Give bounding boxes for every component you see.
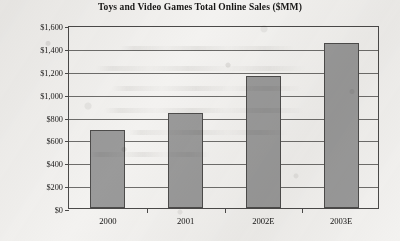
- bar: [324, 43, 359, 208]
- bar: [90, 130, 125, 208]
- bars-series: [69, 27, 378, 208]
- plot-area: $0$200$400$600$800$1,000$1,200$1,400$1,6…: [68, 26, 379, 209]
- x-axis-tick-label: 2001: [177, 216, 194, 226]
- x-axis-tick-mark: [147, 208, 148, 213]
- x-axis-tick-label: 2003E: [330, 216, 352, 226]
- x-axis-tick-label: 2000: [99, 216, 116, 226]
- y-axis-tick-mark: [65, 210, 69, 211]
- x-axis-tick-mark: [302, 208, 303, 213]
- bar-chart: Toys and Video Games Total Online Sales …: [0, 0, 400, 241]
- bar: [168, 113, 203, 208]
- x-axis-tick-label: 2002E: [252, 216, 274, 226]
- bar: [246, 76, 281, 208]
- chart-title: Toys and Video Games Total Online Sales …: [0, 2, 400, 12]
- x-axis-tick-mark: [225, 208, 226, 213]
